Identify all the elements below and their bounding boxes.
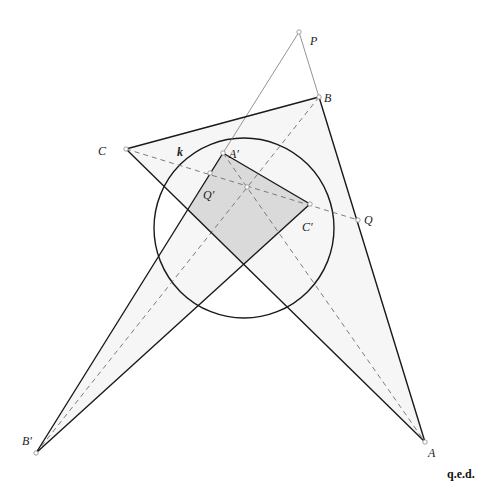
label-point: Q xyxy=(364,213,373,227)
point-marker-c xyxy=(124,147,128,151)
point-marker-a-prime xyxy=(221,151,225,155)
geometry-figure: PBCkA′Q′C′QB′A xyxy=(0,0,491,496)
label-point: Q′ xyxy=(203,188,215,202)
point-marker-a xyxy=(423,440,427,444)
point-marker-q-prime xyxy=(208,171,212,175)
point-marker-q xyxy=(356,218,360,222)
qed-text: q.e.d. xyxy=(447,467,475,482)
point-marker-o xyxy=(245,185,249,189)
label-point: P xyxy=(309,34,318,48)
label-point: B xyxy=(324,91,332,105)
label-point: A xyxy=(427,446,436,460)
label-circle-k: k xyxy=(177,145,183,159)
label-point: A′ xyxy=(228,147,239,161)
label-point: B′ xyxy=(22,434,32,448)
point-marker-c-prime xyxy=(308,202,312,206)
point-marker-b xyxy=(317,95,321,99)
label-point: C′ xyxy=(302,220,313,234)
point-marker-p xyxy=(297,30,301,34)
point-marker-b-prime xyxy=(34,451,38,455)
label-point: C xyxy=(98,144,107,158)
